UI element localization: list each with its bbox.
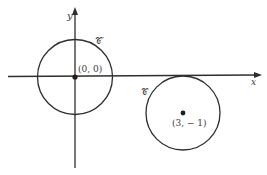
center-c-coordinate-label: (3, − 1) xyxy=(172,118,207,128)
y-axis-arrow-icon xyxy=(72,7,78,15)
center-point-c xyxy=(181,111,186,116)
circle-c-prime-label: 𝒞′ xyxy=(95,36,104,46)
diagram-canvas: y x 𝒞′ (0, 0) 𝒞 (3, − 1) xyxy=(0,0,267,175)
x-axis xyxy=(8,75,256,77)
x-axis-label: x xyxy=(251,77,256,87)
origin-point xyxy=(72,74,77,79)
origin-coordinate-label: (0, 0) xyxy=(78,64,102,74)
circle-c-label: 𝒞 xyxy=(141,87,149,97)
y-axis-label: y xyxy=(66,10,73,21)
